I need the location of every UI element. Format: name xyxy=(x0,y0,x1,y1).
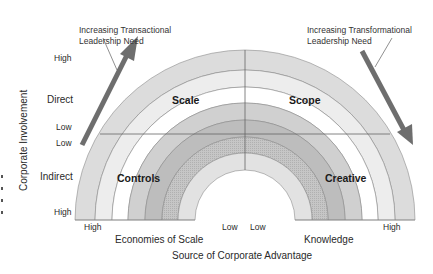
y-tick-bottom-high: High xyxy=(54,208,71,217)
y-tick-lower-low: Low xyxy=(56,139,72,148)
x-tick-left-high: High xyxy=(84,223,101,232)
y-label-indirect: Indirect xyxy=(40,172,73,182)
y-tick-top-high: High xyxy=(54,54,71,63)
leadership-diagram: Increasing Transactional Leadership Need… xyxy=(0,0,433,274)
x-label-economies-of-scale: Economies of Scale xyxy=(115,235,203,245)
x-tick-right-low: Low xyxy=(250,223,266,232)
x-label-knowledge: Knowledge xyxy=(304,235,353,245)
x-tick-left-low: Low xyxy=(222,223,238,232)
transactional-annotation: Increasing Transactional Leadership Need xyxy=(79,25,171,47)
transformational-annotation-line2: Leadership Need xyxy=(307,36,412,47)
x-tick-right-high: High xyxy=(383,223,400,232)
edge-artifact xyxy=(1,175,4,223)
quadrant-scope: Scope xyxy=(289,94,321,106)
x-axis-title: Source of Corporate Advantage xyxy=(172,251,312,261)
y-tick-upper-low: Low xyxy=(56,123,72,132)
y-axis-title: Corporate Involvement xyxy=(18,90,29,191)
quadrant-controls: Controls xyxy=(117,172,160,184)
transformational-annotation-line1: Increasing Transformational xyxy=(307,25,412,36)
transformational-annotation: Increasing Transformational Leadership N… xyxy=(307,25,412,47)
quadrant-scale: Scale xyxy=(172,94,199,106)
quadrant-creative: Creative xyxy=(325,172,366,184)
y-label-direct: Direct xyxy=(47,95,73,105)
transactional-annotation-line1: Increasing Transactional xyxy=(79,25,171,36)
transactional-annotation-line2: Leadership Need xyxy=(79,36,171,47)
